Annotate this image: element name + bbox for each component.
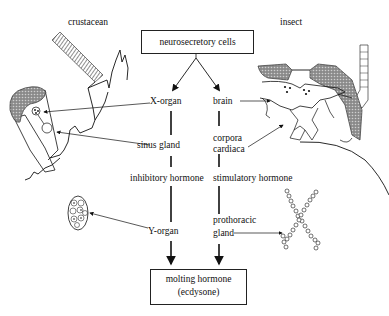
node-x-organ: X-organ — [150, 96, 181, 107]
node-sinus-gland: sinus gland — [137, 140, 180, 151]
node-stimulatory-hormone: stimulatory hormone — [213, 173, 292, 184]
label-crustacean: crustacean — [68, 17, 108, 28]
label-insect: insect — [280, 17, 302, 28]
node-prothoracic-gland-line2: gland — [213, 228, 234, 239]
y-organ-illustration — [68, 196, 88, 230]
node-molting-hormone: molting hormone (ecdysone) — [150, 269, 247, 305]
node-neurosecretory-cells: neurosecretory cells — [141, 30, 254, 54]
node-molting-hormone-line1: molting hormone — [151, 274, 246, 284]
node-brain: brain — [213, 96, 233, 107]
prothoracic-gland-illustration — [281, 189, 320, 250]
node-corpora-cardiaca-line2: cardiaca — [213, 144, 245, 155]
node-y-organ: Y-organ — [148, 226, 178, 237]
node-molting-hormone-line2: (ecdysone) — [151, 287, 246, 297]
crustacean-illustration — [10, 32, 128, 180]
node-prothoracic-gland-line1: prothoracic — [213, 215, 256, 226]
node-neurosecretory-cells-label: neurosecretory cells — [159, 37, 235, 47]
node-inhibitory-hormone: inhibitory hormone — [130, 173, 204, 184]
node-corpora-cardiaca-line1: corpora — [213, 133, 242, 144]
